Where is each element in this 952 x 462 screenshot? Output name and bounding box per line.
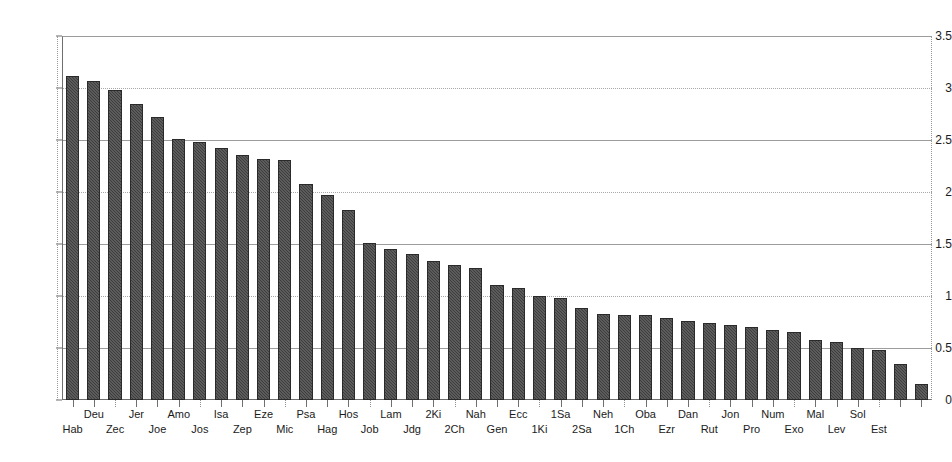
x-axis-tick-mark bbox=[815, 400, 816, 407]
bar bbox=[151, 117, 164, 400]
x-axis-tick-mark bbox=[242, 400, 243, 407]
x-axis-tick-mark bbox=[433, 400, 434, 407]
bar bbox=[427, 261, 440, 400]
bar bbox=[872, 350, 885, 400]
x-axis-tick-label: Oba bbox=[635, 409, 656, 420]
x-axis-tick-mark bbox=[455, 400, 456, 407]
x-axis-tick-label: Ezr bbox=[659, 424, 676, 435]
bar bbox=[851, 348, 864, 400]
x-axis-tick-mark bbox=[667, 400, 668, 407]
x-axis-tick-label: Isa bbox=[214, 409, 229, 420]
x-axis-tick-label: Zec bbox=[106, 424, 124, 435]
x-axis-tick-mark bbox=[879, 400, 880, 407]
x-axis-tick-mark bbox=[221, 400, 222, 407]
bar bbox=[257, 159, 270, 400]
bar bbox=[236, 155, 249, 400]
bar bbox=[108, 90, 121, 400]
x-axis-tick-mark bbox=[752, 400, 753, 407]
x-axis-tick-label: Lam bbox=[380, 409, 401, 420]
bar bbox=[660, 318, 673, 400]
x-axis-tick-label: Jer bbox=[129, 409, 144, 420]
x-axis-tick-label: Hos bbox=[339, 409, 359, 420]
bar bbox=[639, 315, 652, 400]
x-axis-tick-label: 1Sa bbox=[551, 409, 571, 420]
x-axis-tick-mark bbox=[603, 400, 604, 407]
x-axis-tick-label: Eze bbox=[254, 409, 273, 420]
x-axis-tick-label: Lev bbox=[828, 424, 846, 435]
x-axis-tick-label: Est bbox=[871, 424, 887, 435]
x-axis-tick-mark bbox=[794, 400, 795, 407]
x-axis-tick-mark bbox=[497, 400, 498, 407]
x-axis-tick-mark bbox=[539, 400, 540, 407]
x-axis-tick-label: Amo bbox=[167, 409, 190, 420]
x-axis-tick-label: Mic bbox=[276, 424, 293, 435]
bar bbox=[830, 342, 843, 400]
x-axis-tick-mark bbox=[412, 400, 413, 407]
x-axis-tick-label: Jos bbox=[191, 424, 208, 435]
x-axis-tick-mark bbox=[179, 400, 180, 407]
x-axis-tick-mark bbox=[391, 400, 392, 407]
x-axis-tick-mark bbox=[264, 400, 265, 407]
x-axis-tick-mark bbox=[327, 400, 328, 407]
x-axis-tick-mark bbox=[561, 400, 562, 407]
bar bbox=[894, 364, 907, 400]
bar bbox=[172, 139, 185, 400]
bar bbox=[809, 340, 822, 400]
x-axis-tick-mark bbox=[115, 400, 116, 407]
x-axis-tick-label: Dan bbox=[678, 409, 698, 420]
x-axis-tick-label: Ecc bbox=[509, 409, 527, 420]
bar bbox=[215, 148, 228, 400]
bar bbox=[618, 315, 631, 400]
x-axis-tick-label: Deu bbox=[84, 409, 104, 420]
bar bbox=[787, 332, 800, 400]
x-axis-tick-mark bbox=[709, 400, 710, 407]
bar bbox=[406, 254, 419, 400]
x-axis-tick-mark bbox=[646, 400, 647, 407]
bars-layer bbox=[62, 36, 932, 400]
bar bbox=[533, 296, 546, 400]
bar bbox=[278, 160, 291, 400]
x-axis-tick-mark bbox=[921, 400, 922, 407]
bar bbox=[342, 210, 355, 400]
bar bbox=[597, 314, 610, 400]
x-axis-tick-mark bbox=[157, 400, 158, 407]
x-axis-tick-mark bbox=[688, 400, 689, 407]
x-axis-tick-mark bbox=[200, 400, 201, 407]
bar bbox=[915, 384, 928, 400]
x-axis-tick-mark bbox=[624, 400, 625, 407]
bar bbox=[363, 243, 376, 400]
bar bbox=[87, 81, 100, 400]
bar bbox=[130, 104, 143, 400]
bar bbox=[384, 249, 397, 400]
x-axis-tick-label: 2Ch bbox=[444, 424, 464, 435]
x-axis-tick-label: Num bbox=[761, 409, 784, 420]
x-axis-tick-label: Zep bbox=[233, 424, 252, 435]
bar bbox=[448, 265, 461, 400]
x-axis-tick-label: Neh bbox=[593, 409, 613, 420]
bar bbox=[745, 327, 758, 400]
x-axis-tick-label: 1Ch bbox=[614, 424, 634, 435]
bar bbox=[512, 288, 525, 400]
x-axis-tick-mark bbox=[858, 400, 859, 407]
x-axis-tick-label: Mal bbox=[806, 409, 824, 420]
x-axis-tick-label: Nah bbox=[466, 409, 486, 420]
x-axis-tick-mark bbox=[582, 400, 583, 407]
x-axis-tick-mark bbox=[73, 400, 74, 407]
x-axis-tick-mark bbox=[837, 400, 838, 407]
x-axis-tick-mark bbox=[285, 400, 286, 407]
bar bbox=[469, 268, 482, 400]
x-axis-tick-label: Exo bbox=[785, 424, 804, 435]
bar bbox=[299, 184, 312, 400]
bar bbox=[490, 285, 503, 400]
x-axis-tick-label: 2Sa bbox=[572, 424, 592, 435]
x-axis-tick-label: 2Ki bbox=[425, 409, 441, 420]
bar bbox=[321, 195, 334, 400]
x-axis-tick-label: Jdg bbox=[403, 424, 421, 435]
x-axis-tick-mark bbox=[136, 400, 137, 407]
x-axis-tick-mark bbox=[730, 400, 731, 407]
bar bbox=[724, 325, 737, 400]
x-axis-tick-label: Rut bbox=[701, 424, 718, 435]
bar bbox=[554, 298, 567, 400]
bar bbox=[575, 308, 588, 400]
bar-chart: 00.511.522.533.5 HabDeuZecJerJoeAmoJosIs… bbox=[0, 0, 952, 462]
